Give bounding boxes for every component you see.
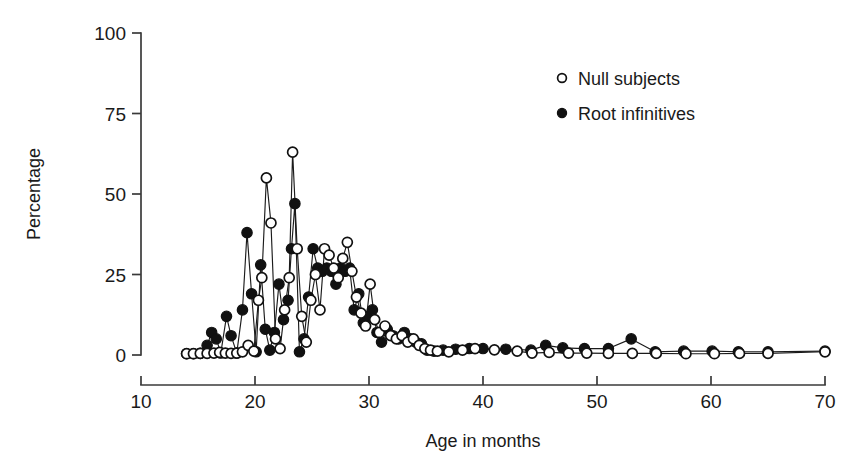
data-point-open-circle <box>347 266 357 276</box>
legend-marker-open-circle-icon <box>558 74 567 83</box>
data-point-open-circle <box>709 349 719 359</box>
data-point-open-circle <box>544 347 554 357</box>
data-point-open-circle <box>651 348 661 358</box>
data-point-open-circle <box>361 321 371 331</box>
y-tick-labels: 0255075100 <box>94 23 126 366</box>
data-point-filled-circle <box>265 345 275 355</box>
data-point-open-circle <box>329 263 339 273</box>
data-point-open-circle <box>627 348 637 358</box>
data-point-open-circle <box>365 279 375 289</box>
data-point-filled-circle <box>221 311 231 321</box>
data-point-open-circle <box>603 348 613 358</box>
x-axis: 10203040506070 <box>130 376 835 412</box>
data-point-open-circle <box>324 250 334 260</box>
x-tick-label: 20 <box>244 391 265 412</box>
x-tick-label: 50 <box>586 391 607 412</box>
data-point-open-circle <box>253 295 263 305</box>
data-point-open-circle <box>249 346 259 356</box>
y-tick-label: 100 <box>94 23 126 44</box>
data-point-filled-circle <box>626 334 636 344</box>
y-axis: 0255075100 <box>94 23 141 366</box>
data-point-open-circle <box>261 173 271 183</box>
x-tick-label: 70 <box>814 391 835 412</box>
y-tick-label: 25 <box>105 265 126 286</box>
legend: Null subjects Root infinitives <box>557 69 695 124</box>
data-point-open-circle <box>351 292 361 302</box>
legend-marker-filled-circle-icon <box>557 108 566 117</box>
chart-svg: 0255075100 10203040506070 Percentage Age… <box>0 0 852 469</box>
data-point-filled-circle <box>283 295 293 305</box>
x-tick-label: 30 <box>358 391 379 412</box>
x-tick-label: 60 <box>700 391 721 412</box>
data-point-filled-circle <box>501 344 511 354</box>
y-axis-title: Percentage <box>24 148 44 240</box>
data-point-filled-circle <box>274 279 284 289</box>
data-point-open-circle <box>275 344 285 354</box>
data-point-open-circle <box>564 348 574 358</box>
data-point-open-circle <box>820 347 830 357</box>
data-point-open-circle <box>288 147 298 157</box>
data-point-open-circle <box>582 348 592 358</box>
data-point-open-circle <box>266 218 276 228</box>
data-point-open-circle <box>257 273 267 283</box>
data-point-open-circle <box>527 348 537 358</box>
data-point-filled-circle <box>367 305 377 315</box>
data-point-filled-circle <box>376 337 386 347</box>
data-point-filled-circle <box>211 334 221 344</box>
x-tick-label: 10 <box>130 391 151 412</box>
figure-canvas: 0255075100 10203040506070 Percentage Age… <box>0 0 852 469</box>
series-markers-null-subjects <box>182 147 830 359</box>
data-point-open-circle <box>301 337 311 347</box>
y-tick-label: 50 <box>105 184 126 205</box>
data-point-open-circle <box>333 273 343 283</box>
data-point-open-circle <box>432 346 442 356</box>
data-point-open-circle <box>470 344 480 354</box>
data-point-filled-circle <box>237 305 247 315</box>
data-point-open-circle <box>342 237 352 247</box>
data-point-filled-circle <box>226 330 236 340</box>
data-point-open-circle <box>356 308 366 318</box>
data-point-filled-circle <box>308 244 318 254</box>
data-point-open-circle <box>306 295 316 305</box>
plot-area <box>181 147 830 359</box>
data-point-filled-circle <box>278 314 288 324</box>
data-point-open-circle <box>292 244 302 254</box>
legend-label-root-infinitives: Root infinitives <box>578 104 695 124</box>
data-point-open-circle <box>763 348 773 358</box>
data-point-open-circle <box>297 311 307 321</box>
data-point-open-circle <box>370 315 380 325</box>
data-point-open-circle <box>284 273 294 283</box>
data-point-open-circle <box>444 347 454 357</box>
data-point-open-circle <box>271 334 281 344</box>
data-point-open-circle <box>338 253 348 263</box>
data-point-open-circle <box>735 348 745 358</box>
data-point-open-circle <box>681 349 691 359</box>
data-point-filled-circle <box>242 227 252 237</box>
data-point-open-circle <box>280 305 290 315</box>
data-point-open-circle <box>457 345 467 355</box>
data-point-open-circle <box>512 346 522 356</box>
data-point-open-circle <box>489 345 499 355</box>
data-point-filled-circle <box>256 260 266 270</box>
data-point-open-circle <box>380 321 390 331</box>
x-tick-labels: 10203040506070 <box>130 391 835 412</box>
legend-label-null-subjects: Null subjects <box>578 69 680 89</box>
data-point-filled-circle <box>294 347 304 357</box>
data-point-open-circle <box>315 305 325 315</box>
x-axis-title: Age in months <box>425 431 540 451</box>
y-tick-label: 75 <box>105 104 126 125</box>
x-tick-group <box>141 376 825 385</box>
y-tick-group <box>132 33 141 355</box>
data-point-open-circle <box>310 270 320 280</box>
y-tick-label: 0 <box>115 345 126 366</box>
data-point-filled-circle <box>290 198 300 208</box>
x-tick-label: 40 <box>472 391 493 412</box>
